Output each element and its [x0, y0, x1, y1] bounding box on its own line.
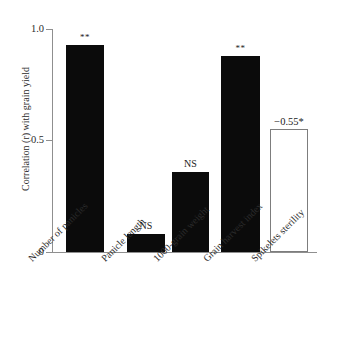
x-axis-line [52, 252, 317, 253]
y-tick-label: 0.5 [31, 135, 44, 146]
plot-area: ** NS NS ** −0.55* [52, 29, 317, 252]
bar-annotation: ** [221, 43, 260, 53]
bar-annotation: ** [66, 32, 104, 42]
y-axis-title: Correlation (r) with grain yield [21, 29, 31, 229]
bar-annotation: −0.55* [271, 117, 307, 127]
y-tick-0.5: 0.5 [0, 135, 44, 146]
y-tick-label: 1.0 [31, 24, 44, 35]
y-tick-1.0: 1.0 [0, 24, 44, 35]
correlation-bar-chart: Correlation (r) with grain yield 1.0 0.5… [0, 0, 338, 337]
bar-annotation: NS [172, 159, 209, 169]
